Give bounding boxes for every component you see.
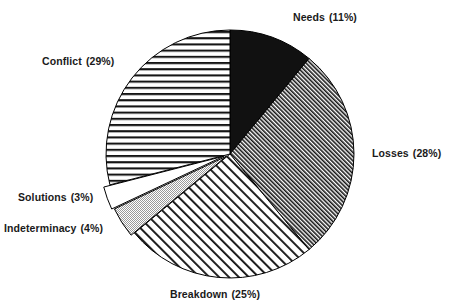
slice-label-breakdown: Breakdown(25%) (170, 288, 260, 300)
slice-label-losses-name: Losses (372, 147, 409, 159)
slice-label-conflict: Conflict(29%) (42, 55, 114, 67)
slice-label-indeterminacy-percent: (4%) (81, 222, 104, 234)
slice-label-needs: Needs(11%) (293, 11, 357, 23)
slice-label-conflict-name: Conflict (42, 55, 82, 67)
slice-label-breakdown-percent: (25%) (232, 288, 261, 300)
slice-label-needs-name: Needs (293, 11, 325, 23)
slice-label-solutions: Solutions(3%) (18, 191, 93, 203)
slice-label-losses: Losses(28%) (372, 147, 441, 159)
pie-slices-group (104, 30, 354, 278)
slice-label-breakdown-name: Breakdown (170, 288, 228, 300)
pie-chart-figure: Needs(11%) Conflict(29%) Losses(28%) Sol… (0, 0, 454, 306)
slice-label-conflict-percent: (29%) (86, 55, 115, 67)
slice-label-solutions-name: Solutions (18, 191, 67, 203)
slice-label-needs-percent: (11%) (329, 11, 357, 23)
slice-label-indeterminacy-name: Indeterminacy (4, 222, 77, 234)
slice-label-indeterminacy: Indeterminacy(4%) (4, 222, 103, 234)
slice-label-losses-percent: (28%) (413, 147, 442, 159)
slice-label-solutions-percent: (3%) (71, 191, 94, 203)
